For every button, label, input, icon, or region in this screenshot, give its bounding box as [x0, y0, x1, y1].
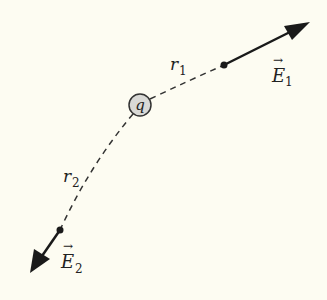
e1-arrowhead-icon — [284, 22, 310, 40]
r1-subscript: 1 — [179, 64, 187, 78]
point-1-dot — [221, 62, 228, 69]
e1-subscript: 1 — [285, 75, 293, 89]
r1-label: r — [170, 54, 179, 74]
r2-subscript: 2 — [72, 176, 80, 190]
point-2-dot — [57, 227, 64, 234]
charge-label: q — [135, 96, 145, 114]
r1-dashed-line — [150, 65, 224, 99]
e1-label: E — [271, 65, 285, 86]
field-diagram: q r 1 r 2 → E 1 → E 2 — [0, 0, 327, 300]
r2-label: r — [63, 166, 72, 186]
diagram-svg: q r 1 r 2 → E 1 → E 2 — [0, 0, 327, 300]
e2-arrowhead-icon — [30, 249, 50, 273]
e2-subscript: 2 — [75, 262, 83, 276]
e2-vector-arrow — [42, 230, 60, 256]
e2-label: E — [60, 251, 74, 272]
